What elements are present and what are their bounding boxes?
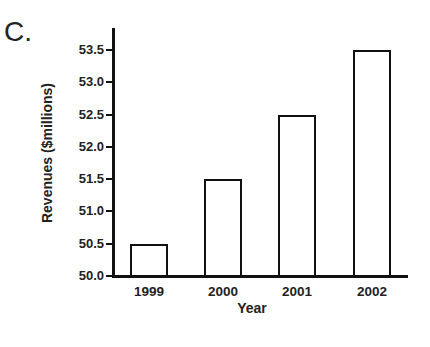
x-axis-title: Year: [222, 300, 282, 316]
x-tick-label: 2002: [347, 284, 397, 299]
bar-chart: Revenues ($millions) Year 50.050.551.051…: [0, 0, 430, 347]
y-tick-label: 52.5: [62, 108, 104, 122]
bar-1999: [130, 244, 168, 276]
y-tick-label: 51.0: [62, 204, 104, 218]
y-axis-title: Revenues ($millions): [39, 53, 55, 253]
y-tick-label: 50.0: [62, 269, 104, 283]
bar-2002: [353, 50, 391, 276]
x-axis-line: [112, 275, 408, 278]
y-tick-label: 53.5: [62, 43, 104, 57]
bar-2000: [204, 179, 242, 276]
y-tick-label: 50.5: [62, 237, 104, 251]
y-tick-label: 52.0: [62, 140, 104, 154]
x-tick-label: 1999: [124, 284, 174, 299]
bar-2001: [278, 115, 316, 277]
y-tick-label: 51.5: [62, 172, 104, 186]
y-tick-label: 53.0: [62, 75, 104, 89]
x-tick-label: 2000: [198, 284, 248, 299]
y-axis-line: [112, 28, 115, 278]
x-tick-label: 2001: [272, 284, 322, 299]
